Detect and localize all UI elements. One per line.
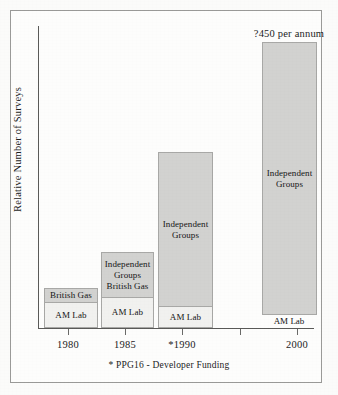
bar-1985-label-line3: British Gas (107, 281, 149, 292)
bar-1990-label-line2: Groups (172, 230, 199, 241)
x-tick-1990 (182, 329, 183, 335)
x-tick-2000 (297, 329, 298, 335)
bar-1990-segment-am-lab: AM Lab (159, 306, 212, 327)
bar-1985: Independent Groups British Gas AM Lab (101, 252, 154, 328)
x-tick-1980 (68, 329, 69, 335)
y-axis-title: Relative Number of Surveys (12, 70, 23, 230)
annotation-per-annum: ?450 per annum (254, 28, 324, 39)
bar-1985-label-line1: Independent (105, 259, 151, 270)
bar-1980: British Gas AM Lab (44, 288, 98, 328)
bar-1980-label-british-gas: British Gas (50, 290, 92, 301)
bar-1980-segment-british-gas: British Gas (45, 289, 97, 302)
bar-1985-label-line2: Groups (114, 270, 141, 281)
bar-1980-segment-am-lab: AM Lab (45, 302, 97, 327)
bar-2000-segment-independent-groups: Independent Groups (263, 43, 316, 314)
x-axis-line (38, 328, 314, 329)
bar-2000-label-line2: Groups (276, 179, 303, 190)
bar-1990: Independent Groups AM Lab (158, 152, 213, 328)
bar-1990-segment-independent-groups: Independent Groups (159, 153, 212, 306)
x-tick-1985 (125, 329, 126, 335)
bar-2000-label-line1: Independent (267, 168, 313, 179)
x-tick-label-1985: 1985 (114, 339, 136, 350)
y-axis-line (38, 26, 39, 329)
x-tick-label-1990: *1990 (168, 339, 196, 350)
bar-2000: Independent Groups (262, 42, 317, 315)
chart-footnote: * PPG16 - Developer Funding (0, 360, 338, 370)
bar-1985-segment-independent-groups-british-gas: Independent Groups British Gas (102, 253, 153, 297)
x-tick-label-2000: 2000 (286, 339, 308, 350)
x-tick-1995 (240, 329, 241, 335)
bar-2000-label-am-lab: AM Lab (274, 316, 305, 327)
bar-1985-segment-am-lab: AM Lab (102, 297, 153, 327)
bar-1985-label-am-lab: AM Lab (112, 307, 143, 318)
bar-1990-label-line1: Independent (163, 219, 209, 230)
bar-1990-label-am-lab: AM Lab (170, 312, 201, 323)
x-tick-label-1980: 1980 (57, 339, 79, 350)
figure-root: Relative Number of Surveys 1980 1985 *19… (0, 0, 338, 395)
bar-1980-label-am-lab: AM Lab (55, 310, 86, 321)
